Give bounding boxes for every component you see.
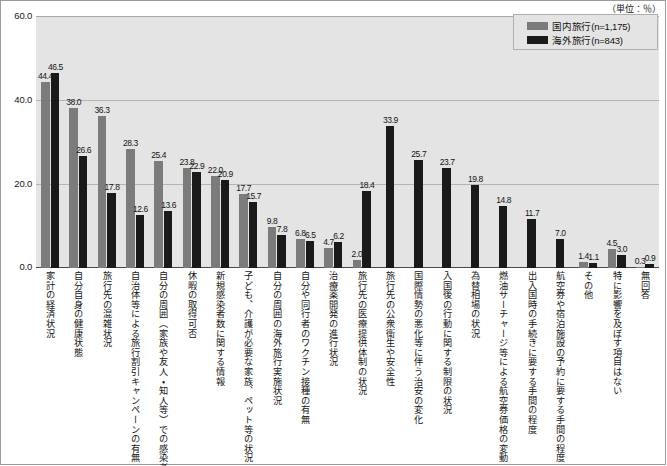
bar-domestic[interactable] bbox=[579, 262, 588, 268]
bar-value-domestic: 25.4 bbox=[149, 151, 168, 160]
bar-group: 44.446.5 bbox=[36, 16, 64, 268]
bar-domestic[interactable] bbox=[41, 82, 50, 268]
bar-overseas[interactable] bbox=[617, 255, 626, 268]
bar-overseas[interactable] bbox=[527, 219, 536, 268]
x-axis-label: 自分の周囲の海外旅行実施状況 bbox=[271, 271, 282, 465]
bar-domestic[interactable] bbox=[69, 108, 78, 268]
bar-value-overseas: 23.7 bbox=[438, 158, 456, 167]
bar-overseas[interactable] bbox=[471, 185, 480, 268]
x-axis-label: 自分や同行者のワクチン接種の有無 bbox=[299, 271, 310, 465]
bar-group: 4.76.2 bbox=[319, 16, 347, 268]
bar-domestic[interactable] bbox=[636, 267, 645, 268]
y-tick-20: 20.0 bbox=[0, 178, 32, 189]
bar-overseas[interactable] bbox=[221, 180, 230, 268]
bar-group: 1.41.1 bbox=[574, 16, 602, 268]
bar-overseas[interactable] bbox=[589, 263, 598, 268]
bar-overseas[interactable] bbox=[386, 126, 395, 268]
bar-group: 22.020.9 bbox=[206, 16, 234, 268]
bar-group: 2.018.4 bbox=[348, 16, 376, 268]
bar-overseas[interactable] bbox=[362, 191, 371, 268]
bar-domestic[interactable] bbox=[353, 260, 362, 268]
x-axis-label: 家計の経済状況 bbox=[44, 271, 55, 465]
bar-value-overseas: 0.9 bbox=[641, 254, 659, 263]
bar-overseas[interactable] bbox=[645, 264, 654, 268]
bar-overseas[interactable] bbox=[306, 241, 315, 268]
bar-overseas[interactable] bbox=[277, 235, 286, 268]
bar-overseas[interactable] bbox=[79, 156, 88, 268]
bar-value-overseas: 13.6 bbox=[160, 201, 178, 210]
bar-group: 25.413.6 bbox=[149, 16, 177, 268]
x-axis-label: 旅行先の混雑状況 bbox=[101, 271, 112, 465]
bars-layer: 44.446.538.026.636.317.828.312.625.413.6… bbox=[36, 16, 659, 268]
x-axis-label: 航空券や宿泊施設の予約に要する手間の程度 bbox=[554, 271, 565, 465]
bar-value-overseas: 33.9 bbox=[382, 116, 400, 125]
x-axis-label: その他 bbox=[582, 271, 593, 465]
x-axis-label: 特に影響を及ぼす項目はない bbox=[611, 271, 622, 465]
x-axis-label: 旅行先の公衆衛生や安全性 bbox=[384, 271, 395, 465]
x-axis-label: 入国後の行動に関する制限の状況 bbox=[441, 271, 452, 465]
bar-value-overseas: 20.9 bbox=[217, 170, 235, 179]
bar-overseas[interactable] bbox=[136, 215, 145, 268]
bar-group: 9.87.8 bbox=[263, 16, 291, 268]
bar-value-overseas: 25.7 bbox=[410, 150, 428, 159]
x-axis-label: 子ども、介護が必要な家族、ペット等の状況 bbox=[242, 271, 253, 465]
bar-group: 19.8 bbox=[461, 16, 489, 268]
bar-overseas[interactable] bbox=[499, 206, 508, 268]
bar-domestic[interactable] bbox=[296, 239, 305, 268]
bar-group: 11.7 bbox=[517, 16, 545, 268]
y-tick-40: 40.0 bbox=[0, 94, 32, 105]
bar-domestic[interactable] bbox=[239, 194, 248, 268]
x-axis-label: 燃油サーチャージ等による航空券価格の変動 bbox=[497, 271, 508, 465]
x-axis-label: 旅行先の医療提供体制の状況 bbox=[356, 271, 367, 465]
bar-overseas[interactable] bbox=[192, 172, 201, 268]
bar-domestic[interactable] bbox=[183, 168, 192, 268]
bar-overseas[interactable] bbox=[107, 193, 116, 268]
bar-group: 25.7 bbox=[404, 16, 432, 268]
x-axis-label: 自治体等による旅行割引キャンペーンの有無 bbox=[129, 271, 140, 465]
bar-value-overseas: 19.8 bbox=[467, 175, 485, 184]
bar-domestic[interactable] bbox=[211, 176, 220, 268]
bar-overseas[interactable] bbox=[414, 160, 423, 268]
x-axis-labels: 家計の経済状況自分自身の健康状態旅行先の混雑状況自治体等による旅行割引キャンペー… bbox=[36, 269, 659, 465]
x-axis-label: 無回答 bbox=[639, 271, 650, 465]
bar-value-domestic: 28.3 bbox=[121, 139, 140, 148]
bar-domestic[interactable] bbox=[324, 248, 333, 268]
bar-value-overseas: 7.8 bbox=[273, 225, 291, 234]
bar-overseas[interactable] bbox=[164, 211, 173, 268]
y-tick-60: 60.0 bbox=[0, 10, 32, 21]
bar-value-overseas: 6.5 bbox=[302, 231, 320, 240]
bar-group: 23.822.9 bbox=[178, 16, 206, 268]
bar-group: 36.317.8 bbox=[93, 16, 121, 268]
bar-group: 33.9 bbox=[376, 16, 404, 268]
bar-group: 4.53.0 bbox=[602, 16, 630, 268]
x-axis-label: 為替相場の状況 bbox=[469, 271, 480, 465]
x-axis-label: 治療薬開発の進行状況 bbox=[327, 271, 338, 465]
bar-group: 14.8 bbox=[489, 16, 517, 268]
bar-value-domestic: 36.3 bbox=[93, 106, 112, 115]
bar-value-domestic: 38.0 bbox=[64, 98, 83, 107]
bar-overseas[interactable] bbox=[51, 73, 60, 268]
bar-group: 28.312.6 bbox=[121, 16, 149, 268]
bar-value-overseas: 3.0 bbox=[613, 245, 631, 254]
bar-group: 23.7 bbox=[432, 16, 460, 268]
y-tick-0: 0.0 bbox=[0, 261, 32, 272]
bar-overseas[interactable] bbox=[249, 202, 258, 268]
bar-value-overseas: 1.1 bbox=[585, 253, 603, 262]
x-axis-label: 新規感染者数に関する情報 bbox=[214, 271, 225, 465]
bar-value-overseas: 15.7 bbox=[245, 192, 263, 201]
x-axis-label: 自分自身の健康状態 bbox=[72, 271, 83, 465]
bar-overseas[interactable] bbox=[556, 239, 565, 268]
bar-group: 7.0 bbox=[546, 16, 574, 268]
bar-overseas[interactable] bbox=[334, 242, 343, 268]
bar-value-overseas: 22.9 bbox=[188, 162, 206, 171]
bar-value-overseas: 46.5 bbox=[47, 63, 65, 72]
bar-group: 38.026.6 bbox=[64, 16, 92, 268]
bar-value-overseas: 17.8 bbox=[103, 183, 121, 192]
bar-value-overseas: 14.8 bbox=[495, 196, 513, 205]
bar-domestic[interactable] bbox=[154, 161, 163, 268]
bar-value-overseas: 18.4 bbox=[358, 181, 376, 190]
bar-value-overseas: 11.7 bbox=[523, 209, 541, 218]
bar-value-overseas: 7.0 bbox=[552, 229, 570, 238]
bar-group: 17.715.7 bbox=[234, 16, 262, 268]
bar-overseas[interactable] bbox=[442, 168, 451, 268]
